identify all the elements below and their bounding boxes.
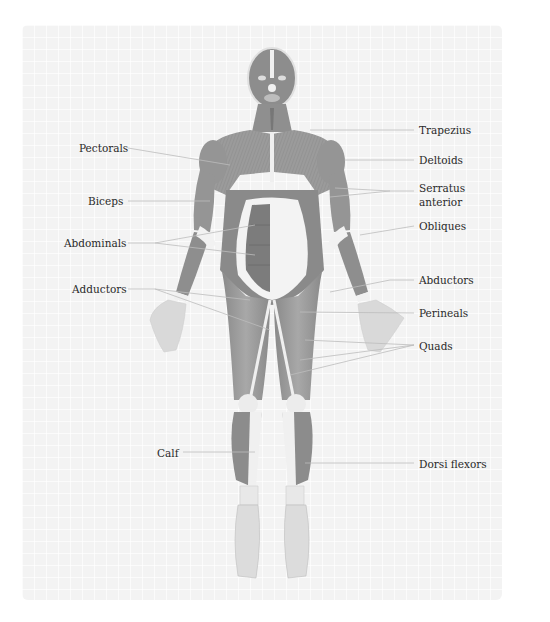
label-trapezius: Trapezius	[419, 123, 471, 137]
label-biceps: Biceps	[88, 194, 123, 208]
label-adductors: Adductors	[72, 282, 127, 296]
left-arm	[150, 170, 216, 352]
label-abductors: Abductors	[419, 273, 474, 287]
label-perineals: Perineals	[419, 306, 468, 320]
label-serratus-anterior: Serratus anterior	[419, 181, 465, 209]
label-pectorals: Pectorals	[79, 141, 128, 155]
label-serratus-line1: Serratus	[419, 181, 465, 195]
label-abdominals: Abdominals	[64, 236, 126, 250]
right-arm	[328, 170, 404, 352]
label-calf: Calf	[157, 446, 179, 460]
head	[248, 48, 296, 108]
label-serratus-line2: anterior	[419, 195, 465, 209]
torso	[199, 130, 345, 305]
label-quads: Quads	[419, 339, 453, 353]
label-obliques: Obliques	[419, 219, 466, 233]
label-deltoids: Deltoids	[419, 153, 463, 167]
label-dorsi-flexors: Dorsi flexors	[419, 457, 487, 471]
